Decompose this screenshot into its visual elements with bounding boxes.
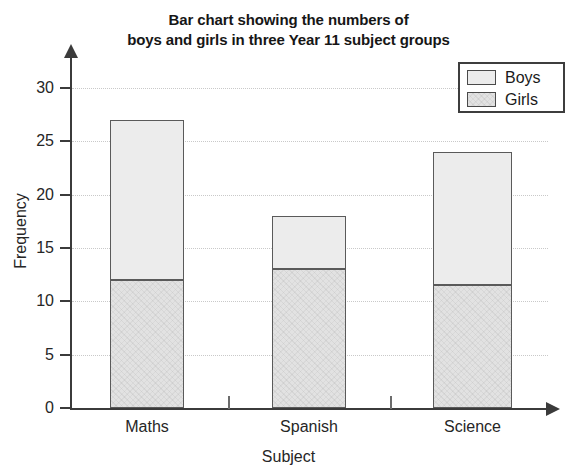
- x-axis-line: [70, 408, 548, 410]
- bar-spanish: [272, 216, 346, 408]
- y-axis-tick-label: 30: [0, 80, 54, 96]
- bar-segment-girls-science: [433, 285, 512, 408]
- bar-maths: [110, 120, 184, 408]
- legend-swatch-boys-icon: [467, 70, 496, 85]
- x-axis-title: Subject: [0, 448, 577, 466]
- x-axis-label-science: Science: [403, 418, 543, 436]
- legend-item-girls: Girls: [467, 90, 561, 110]
- legend-label-girls: Girls: [505, 90, 538, 109]
- bar-segment-girls-maths: [110, 280, 184, 408]
- legend-label-boys: Boys: [505, 68, 541, 87]
- y-axis-tick-label: 20: [0, 187, 54, 203]
- y-axis-tick: [60, 354, 71, 356]
- chart-title-line-1: Bar chart showing the numbers of: [0, 10, 577, 30]
- y-axis-arrow-icon: [64, 44, 78, 58]
- x-axis-tick: [228, 396, 230, 409]
- chart-legend: Boys Girls: [458, 62, 565, 113]
- x-axis-label-spanish: Spanish: [239, 418, 379, 436]
- y-axis-tick: [60, 87, 71, 89]
- y-axis-tick: [60, 194, 71, 196]
- y-axis-line: [70, 55, 72, 410]
- y-axis-tick-label: 15: [0, 240, 54, 256]
- x-axis-arrow-icon: [546, 402, 560, 416]
- bar-segment-boys-maths: [110, 120, 184, 280]
- bar-segment-boys-spanish: [272, 216, 346, 269]
- chart-canvas: Bar chart showing the numbers of boys an…: [0, 0, 577, 474]
- y-axis-tick: [60, 407, 71, 409]
- bar-science: [433, 152, 512, 408]
- y-axis-tick-label: 25: [0, 133, 54, 149]
- y-axis-tick-label: 5: [0, 347, 54, 363]
- legend-item-boys: Boys: [467, 68, 561, 88]
- y-axis-tick-label: 0: [0, 400, 54, 416]
- y-axis-tick: [60, 300, 71, 302]
- y-axis-tick: [60, 247, 71, 249]
- chart-title-line-2: boys and girls in three Year 11 subject …: [0, 30, 577, 50]
- y-axis-tick-label: 10: [0, 293, 54, 309]
- x-axis-tick: [390, 396, 392, 409]
- legend-swatch-girls-icon: [467, 92, 496, 107]
- chart-title: Bar chart showing the numbers of boys an…: [0, 10, 577, 50]
- x-axis-label-maths: Maths: [77, 418, 217, 436]
- bar-segment-girls-spanish: [272, 269, 346, 408]
- bar-segment-boys-science: [433, 152, 512, 285]
- y-axis-tick: [60, 140, 71, 142]
